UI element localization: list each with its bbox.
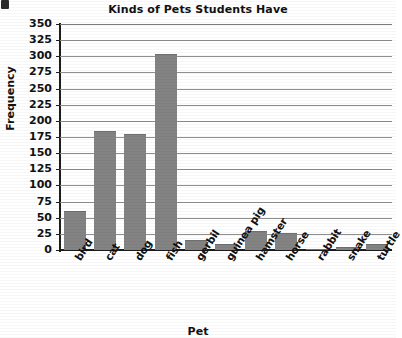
y-axis-tick-label: 300 — [0, 50, 52, 61]
y-axis-tickmark — [56, 24, 60, 25]
y-axis-tickmark — [56, 185, 60, 186]
y-axis-tickmark — [56, 121, 60, 122]
bar — [94, 131, 116, 250]
y-axis-tickmark — [56, 202, 60, 203]
y-axis-tick-label: 100 — [0, 179, 52, 190]
chart-title: Kinds of Pets Students Have — [0, 3, 396, 16]
y-axis-tick-label: 250 — [0, 83, 52, 94]
x-axis-label: Pet — [0, 325, 396, 338]
plot-area — [60, 24, 392, 250]
y-axis-tick-label: 0 — [0, 244, 52, 255]
bar — [124, 134, 146, 250]
y-axis-tick-label: 25 — [0, 228, 52, 239]
y-axis-tick-label: 75 — [0, 196, 52, 207]
y-axis-tickmark — [56, 137, 60, 138]
gridline — [60, 40, 392, 41]
gridline — [60, 72, 392, 73]
y-axis-tick-label: 200 — [0, 115, 52, 126]
y-axis-tick-label: 275 — [0, 66, 52, 77]
y-axis-tick-label: 50 — [0, 212, 52, 223]
y-axis-tick-label: 175 — [0, 131, 52, 142]
gridline — [60, 56, 392, 57]
gridline — [60, 24, 392, 25]
y-axis-tickmark — [56, 153, 60, 154]
gridline — [60, 121, 392, 122]
y-axis-tickmark — [56, 89, 60, 90]
y-axis-tickmark — [56, 169, 60, 170]
y-axis-tickmark — [56, 56, 60, 57]
y-axis-tick-label: 350 — [0, 18, 52, 29]
y-axis-tickmark — [56, 234, 60, 235]
y-axis-tickmark — [56, 218, 60, 219]
y-axis-tick-label: 125 — [0, 163, 52, 174]
y-axis-tickmark — [56, 105, 60, 106]
y-axis-tick-label: 150 — [0, 147, 52, 158]
y-axis-tickmark — [56, 250, 60, 251]
gridline — [60, 89, 392, 90]
y-axis-tickmark — [56, 72, 60, 73]
bar — [155, 54, 177, 250]
gridline — [60, 105, 392, 106]
y-axis-tickmark — [56, 40, 60, 41]
y-axis-tick-label: 325 — [0, 34, 52, 45]
y-axis-tick-label: 225 — [0, 99, 52, 110]
